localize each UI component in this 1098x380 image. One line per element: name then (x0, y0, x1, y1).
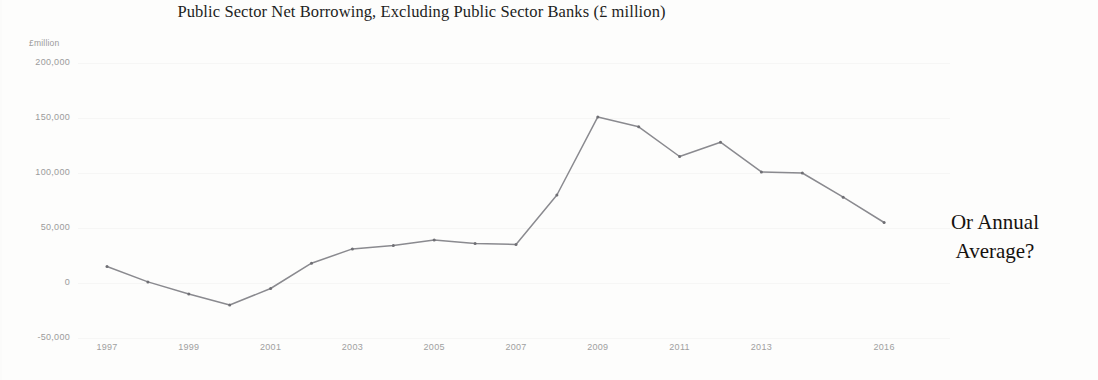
data-point-marker (269, 287, 272, 290)
data-point-marker (842, 196, 845, 199)
data-point-marker (433, 239, 436, 242)
data-line-public-sector-net-borrowing (107, 117, 884, 305)
data-point-marker (351, 247, 354, 250)
annotation-line-1: Or Annual (910, 208, 1080, 237)
data-point-marker (883, 221, 886, 224)
annotation-line-2: Average? (910, 237, 1080, 266)
data-point-marker (678, 155, 681, 158)
data-point-marker (596, 115, 599, 118)
annotation-or-annual-average: Or Annual Average? (910, 208, 1080, 266)
data-point-marker (760, 170, 763, 173)
data-point-marker (555, 194, 558, 197)
data-point-marker (474, 242, 477, 245)
data-point-marker (187, 293, 190, 296)
data-point-marker (310, 262, 313, 265)
data-point-marker (392, 244, 395, 247)
data-point-marker (515, 243, 518, 246)
chart-page: Public Sector Net Borrowing, Excluding P… (0, 0, 1098, 380)
data-point-marker (228, 304, 231, 307)
data-point-marker (106, 265, 109, 268)
data-point-markers (106, 115, 886, 306)
data-point-marker (801, 172, 804, 175)
data-point-marker (146, 280, 149, 283)
series-layer (0, 0, 960, 380)
chart-plot-area: £million 200,000150,000100,00050,0000-50… (0, 0, 960, 380)
data-point-marker (719, 141, 722, 144)
data-point-marker (637, 125, 640, 128)
